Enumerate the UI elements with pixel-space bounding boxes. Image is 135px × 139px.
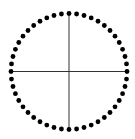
circle-dot — [89, 123, 94, 128]
circle-dot — [26, 110, 31, 115]
circle-dot — [9, 62, 14, 67]
circle-dot — [9, 77, 14, 82]
circle-dot — [52, 13, 57, 18]
circle-dot — [123, 54, 128, 59]
circle-dot — [13, 91, 18, 96]
circle-dot — [96, 119, 101, 124]
circle-dot — [16, 98, 21, 103]
circle-dot — [113, 104, 118, 109]
circle-dot — [38, 119, 43, 124]
circle-dot — [16, 40, 21, 45]
circle-dot — [52, 125, 57, 130]
circle-dot — [74, 12, 79, 17]
circle-dot — [108, 110, 113, 115]
circle-dot — [67, 11, 72, 16]
circle-dot — [120, 47, 125, 52]
circle-dot — [74, 127, 79, 132]
circle-dot — [123, 84, 128, 89]
circle-dot — [21, 104, 26, 109]
circle-dot — [11, 54, 16, 59]
circle-dot — [117, 98, 122, 103]
circle-dot — [102, 23, 107, 28]
circle-dot — [89, 16, 94, 21]
circle-dot — [113, 34, 118, 39]
circle-dot — [82, 13, 87, 18]
circle-dot — [9, 69, 14, 74]
circle-dot — [26, 28, 31, 33]
circle-dot — [31, 23, 36, 28]
circle-dot — [21, 34, 26, 39]
circle-dot — [82, 125, 87, 130]
dotted-circle-diagram — [0, 0, 135, 139]
circle-dot — [96, 19, 101, 24]
circle-dot — [124, 77, 129, 82]
circle-dot — [44, 16, 49, 21]
circle-dot — [124, 62, 129, 67]
circle-dot — [67, 127, 72, 132]
circle-dot — [38, 19, 43, 24]
circle-dot — [59, 12, 64, 17]
circle-dot — [13, 47, 18, 52]
circle-dot — [125, 69, 130, 74]
circle-dot — [102, 115, 107, 120]
circle-dot — [117, 40, 122, 45]
circle-dot — [44, 123, 49, 128]
circle-dot — [11, 84, 16, 89]
circle-dot — [120, 91, 125, 96]
circle-dot — [59, 127, 64, 132]
circle-dot — [108, 28, 113, 33]
circle-dot — [31, 115, 36, 120]
